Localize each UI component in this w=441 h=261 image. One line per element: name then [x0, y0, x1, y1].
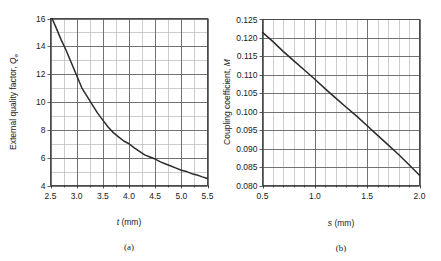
chart-b-y-tick-label: 0.110	[237, 70, 258, 80]
chart-b-x-tick-label: 2.0	[414, 191, 426, 201]
chart-b-y-tick-label: 0.095	[236, 125, 258, 135]
chart-a-y-tick-label: 10	[36, 97, 46, 107]
chart-b-y-tick-label: 0.080	[236, 181, 258, 191]
chart-b-x-axis-title: s (mm)	[328, 218, 355, 228]
chart-b-x-tick-label: 1.0	[309, 191, 321, 201]
chart-a-x-axis-title: t (mm)	[117, 217, 142, 227]
chart-b-y-tick-labels: 0.0800.0850.0900.0950.1000.1050.1100.115…	[236, 15, 258, 191]
chart-a-y-tick-label: 8	[41, 125, 46, 135]
chart-b-y-tick-label: 0.105	[236, 88, 258, 98]
chart-b-y-tick-label: 0.115	[237, 51, 258, 61]
chart-b-y-axis-title: Coupling coefficient, M	[222, 58, 232, 145]
chart-a-y-tick-label: 14	[36, 41, 46, 51]
chart-a-x-tick-label: 5.0	[175, 191, 187, 201]
chart-a-y-tick-label: 12	[36, 69, 46, 79]
chart-a-x-tick-label: 3.5	[97, 191, 109, 201]
chart-a-x-tick-label: 2.5	[45, 191, 57, 201]
chart-a-x-tick-label: 5.5	[202, 191, 214, 201]
chart-b-data-curve	[263, 32, 420, 175]
chart-a-x-tick-labels: 2.53.03.54.04.55.05.5	[45, 191, 214, 201]
chart-panel-b: 0.51.01.52.0 0.0800.0850.0900.0950.1000.…	[220, 0, 441, 261]
chart-b-y-tick-label: 0.090	[236, 144, 258, 154]
chart-b-svg: 0.51.01.52.0 0.0800.0850.0900.0950.1000.…	[220, 0, 441, 261]
chart-a-plot-frame	[51, 19, 208, 186]
chart-b-y-tick-label: 0.100	[236, 107, 258, 117]
chart-b-x-tick-label: 0.5	[257, 191, 269, 201]
chart-b-y-tick-label: 0.085	[236, 162, 258, 172]
chart-a-svg: 2.53.03.54.04.55.05.5 46810121416 t (mm)…	[0, 0, 220, 261]
chart-a-caption: (a)	[124, 242, 134, 252]
chart-b-caption: (b)	[336, 243, 347, 253]
chart-a-y-tick-label: 6	[41, 153, 46, 163]
figure-container: 2.53.03.54.04.55.05.5 46810121416 t (mm)…	[0, 0, 441, 261]
chart-a-y-tick-labels: 46810121416	[36, 14, 46, 191]
chart-a-x-tick-label: 4.0	[123, 191, 135, 201]
chart-b-x-tick-label: 1.5	[361, 191, 373, 201]
chart-b-y-tick-label: 0.120	[236, 33, 258, 43]
chart-a-y-tick-label: 4	[41, 181, 46, 191]
chart-a-y-axis-title: External quality factor, Qe	[8, 53, 19, 150]
chart-a-axis-ticks	[48, 20, 209, 189]
chart-b-x-tick-labels: 0.51.01.52.0	[257, 191, 426, 201]
chart-a-x-tick-label: 3.0	[71, 191, 83, 201]
chart-a-major-gridlines	[51, 19, 209, 187]
chart-b-y-tick-label: 0.125	[236, 15, 258, 25]
chart-a-y-tick-label: 16	[36, 14, 46, 24]
chart-panel-a: 2.53.03.54.04.55.05.5 46810121416 t (mm)…	[0, 0, 220, 261]
chart-a-x-tick-label: 4.5	[149, 191, 161, 201]
